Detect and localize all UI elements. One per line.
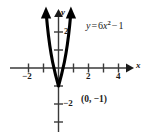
curve-left-arrowhead <box>41 7 51 19</box>
x-tick-label-4: 4 <box>116 72 121 81</box>
y-axis-label: y <box>61 8 65 17</box>
vertex-point-annotation: (0, −1) <box>81 95 107 105</box>
curve-right-arrowhead <box>66 7 76 19</box>
x-axis-arrowhead <box>126 64 134 73</box>
x-tick-label--2: −2 <box>22 72 32 81</box>
parabola-figure: −2 2 4 2 −2 x y y=6x2−1 (0, −1) <box>0 0 148 137</box>
graph-canvas <box>0 0 148 137</box>
equation-equals: = <box>90 20 98 31</box>
equation-annotation: y=6x2−1 <box>86 21 123 31</box>
y-tick-label--2: −2 <box>63 99 73 108</box>
x-tick-label-2: 2 <box>86 72 91 81</box>
equation-constant: 1 <box>118 20 123 31</box>
y-tick-label-2: 2 <box>64 27 69 36</box>
x-axis-label: x <box>136 61 141 70</box>
